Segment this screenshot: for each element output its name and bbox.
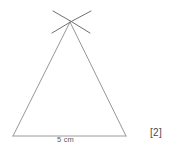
base-length-label: 5 cm bbox=[57, 136, 74, 144]
triangle-right-side bbox=[70, 22, 126, 136]
triangle-left-side bbox=[13, 22, 70, 136]
geometry-figure-container: 5 cm [2] bbox=[0, 0, 179, 155]
question-marks-label: [2] bbox=[150, 128, 162, 138]
